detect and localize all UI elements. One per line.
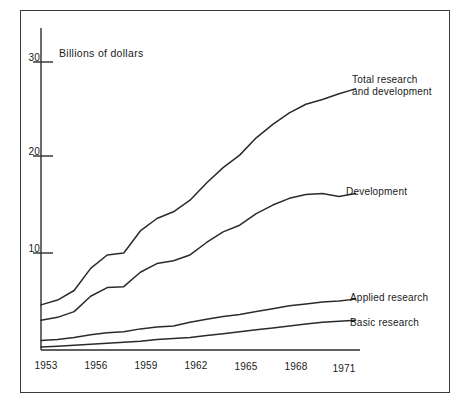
y-tick-label-20: 20: [26, 146, 40, 157]
x-tick-label-1959: 1959: [130, 360, 162, 371]
series-label-development: Development: [346, 186, 407, 198]
x-tick-label-1968: 1968: [280, 361, 312, 372]
x-tick-label-1965: 1965: [230, 361, 262, 372]
x-tick-label-1956: 1956: [80, 360, 112, 371]
y-axis-title: Billions of dollars: [59, 47, 144, 59]
series-label-applied-research: Applied research: [350, 292, 428, 304]
y-tick-label-10: 10: [26, 243, 40, 254]
chart-plot-area: [0, 0, 468, 411]
chart-figure: 30 20 10 Billions of dollars 1953 1956 1…: [0, 0, 468, 411]
x-tick-label-1953: 1953: [30, 360, 62, 371]
x-tick-label-1962: 1962: [180, 360, 212, 371]
series-line-applied-research: [41, 299, 356, 340]
series-line-basic-research: [41, 320, 356, 347]
series-line-development: [41, 194, 356, 321]
series-label-total-research-and-development: Total research and development: [352, 74, 432, 98]
series-line-total-research-and-development: [41, 89, 356, 305]
series-lines: [41, 89, 356, 347]
series-label-basic-research: Basic research: [350, 317, 419, 329]
y-tick-label-30: 30: [26, 52, 40, 63]
x-tick-label-1971: 1971: [328, 363, 360, 374]
